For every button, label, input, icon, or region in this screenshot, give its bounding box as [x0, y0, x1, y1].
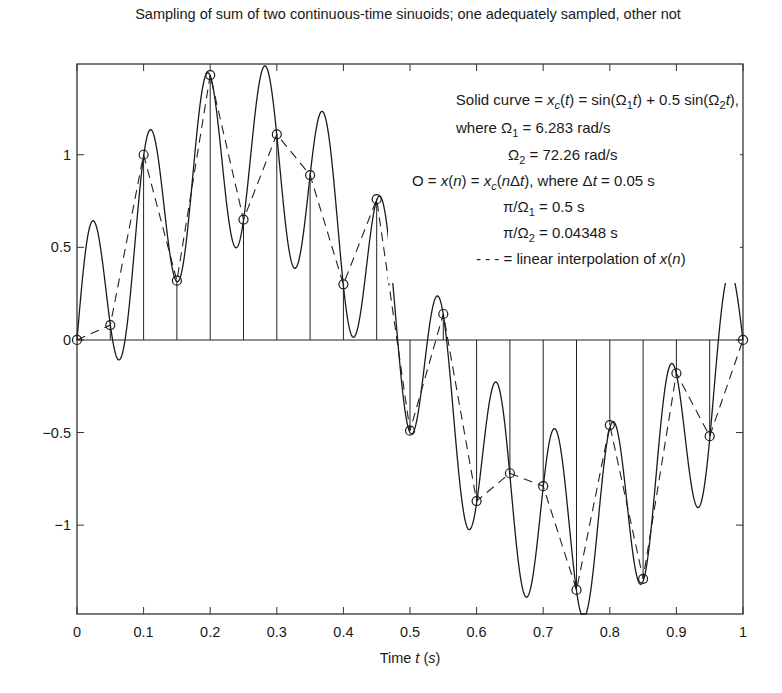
x-tick-label: 0.7: [533, 624, 553, 640]
x-tick-label: 0.9: [666, 624, 686, 640]
y-tick-labels: −1−0.500.51: [42, 147, 71, 533]
y-tick-label: 0: [63, 332, 71, 348]
chart-figure: Sampling of sum of two continuous-time s…: [0, 0, 782, 693]
y-tick-label: −0.5: [42, 425, 71, 441]
x-axis-label: Time t (s): [380, 650, 441, 666]
y-tick-label: −1: [54, 517, 71, 533]
x-tick-label: 0.4: [333, 624, 353, 640]
x-tick-labels: 00.10.20.30.40.50.60.70.80.91: [73, 624, 747, 640]
y-tick-label: 1: [63, 147, 71, 163]
x-tick-label: 0.6: [467, 624, 487, 640]
x-tick-label: 0.1: [134, 624, 154, 640]
y-tick-label: 0.5: [51, 239, 71, 255]
x-tick-label: 0.3: [267, 624, 287, 640]
legend-line-7: - - - = linear interpolation of x(n): [476, 250, 686, 267]
chart-title: Sampling of sum of two continuous-time s…: [135, 6, 681, 22]
legend-annotation: Solid curve = xc(t) = sin(Ω1t) + 0.5 sin…: [388, 88, 740, 283]
x-tick-label: 0.5: [400, 624, 420, 640]
x-tick-label: 0: [73, 624, 81, 640]
x-tick-label: 1: [739, 624, 747, 640]
x-tick-label: 0.2: [200, 624, 220, 640]
x-tick-label: 0.8: [600, 624, 620, 640]
